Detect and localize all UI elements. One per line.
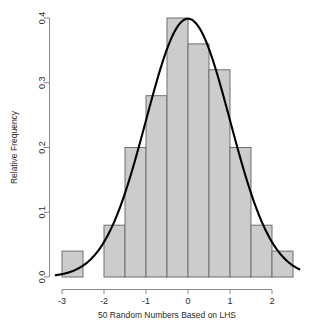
histogram-bar xyxy=(146,96,167,277)
histogram-bar xyxy=(188,44,209,277)
histogram-bar xyxy=(167,18,188,277)
y-axis-tick-label: 0.3 xyxy=(37,76,47,89)
x-axis: -3-2-1012 xyxy=(58,290,275,306)
histogram-chart: 0.00.10.20.30.4 -3-2-1012 Relative Frequ… xyxy=(0,0,335,332)
x-axis-tick-label: 0 xyxy=(185,296,190,306)
x-axis-tick-label: -1 xyxy=(142,296,150,306)
histogram-bars xyxy=(62,18,293,277)
y-axis-tick-label: 0.2 xyxy=(37,141,47,154)
x-axis-tick-label: 2 xyxy=(269,296,274,306)
histogram-bar xyxy=(251,225,272,277)
y-axis-tick-label: 0.0 xyxy=(37,271,47,284)
histogram-bar xyxy=(125,148,146,278)
x-axis-title: 50 Random Numbers Based on LHS xyxy=(98,310,236,320)
histogram-bar xyxy=(209,70,230,277)
y-axis: 0.00.10.20.30.4 xyxy=(37,12,50,284)
x-axis-tick-label: 1 xyxy=(227,296,232,306)
y-axis-tick-label: 0.1 xyxy=(37,206,47,219)
histogram-bar xyxy=(104,225,125,277)
chart-canvas: 0.00.10.20.30.4 -3-2-1012 Relative Frequ… xyxy=(0,0,335,332)
x-axis-tick-label: -3 xyxy=(58,296,66,306)
y-axis-tick-label: 0.4 xyxy=(37,12,47,25)
x-axis-tick-label: -2 xyxy=(100,296,108,306)
histogram-bar xyxy=(230,148,251,278)
y-axis-title: Relative Frequency xyxy=(9,110,19,184)
